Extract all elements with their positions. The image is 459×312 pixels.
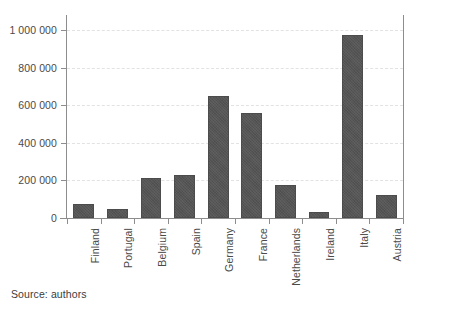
- bar-netherlands: [275, 185, 296, 218]
- plot-area: [67, 15, 403, 218]
- x-tick-label-spain: Spain: [190, 228, 202, 255]
- plot-right-spine: [403, 15, 404, 219]
- source-note: Source: authors: [11, 288, 87, 300]
- y-tick-label-200000: 200 000: [18, 174, 57, 186]
- y-tick-0: [61, 218, 66, 219]
- x-tick-7: [302, 219, 303, 224]
- x-tick-6: [269, 219, 270, 224]
- bar-spain: [174, 175, 195, 218]
- y-tick-label-400000: 400 000: [18, 137, 57, 149]
- x-tick-label-belgium: Belgium: [156, 228, 168, 267]
- x-tick-5: [235, 219, 236, 224]
- x-tick-label-italy: Italy: [358, 228, 370, 248]
- x-axis-line: [60, 218, 404, 219]
- x-tick-1: [101, 219, 102, 224]
- bar-ireland: [309, 212, 330, 218]
- bar-austria: [376, 195, 397, 218]
- y-tick-1000000: [61, 30, 66, 31]
- x-tick-label-ireland: Ireland: [324, 228, 336, 261]
- y-tick-label-1000000: 1 000 000: [9, 24, 57, 36]
- bar-chart-figure: 0200 000400 000600 000800 0001 000 000 F…: [0, 0, 459, 312]
- bar-portugal: [107, 209, 128, 218]
- x-tick-2: [134, 219, 135, 224]
- y-tick-label-800000: 800 000: [18, 62, 57, 74]
- x-tick-label-austria: Austria: [391, 228, 403, 261]
- x-tick-0: [67, 219, 68, 224]
- bar-italy: [342, 35, 363, 218]
- x-tick-4: [201, 219, 202, 224]
- bar-belgium: [141, 178, 162, 218]
- x-tick-label-finland: Finland: [89, 228, 101, 263]
- y-tick-label-600000: 600 000: [18, 99, 57, 111]
- x-tick-3: [168, 219, 169, 224]
- x-tick-10: [403, 219, 404, 224]
- bar-finland: [73, 204, 94, 218]
- y-tick-600000: [61, 105, 66, 106]
- x-tick-label-portugal: Portugal: [122, 228, 134, 268]
- x-tick-8: [336, 219, 337, 224]
- bar-germany: [208, 96, 229, 218]
- y-tick-label-0: 0: [51, 212, 57, 224]
- x-tick-9: [369, 219, 370, 224]
- x-tick-label-germany: Germany: [223, 228, 235, 272]
- x-tick-label-france: France: [257, 228, 269, 261]
- x-tick-label-netherlands: Netherlands: [290, 228, 302, 286]
- y-tick-200000: [61, 180, 66, 181]
- bar-france: [241, 113, 262, 218]
- y-tick-400000: [61, 143, 66, 144]
- y-tick-800000: [61, 68, 66, 69]
